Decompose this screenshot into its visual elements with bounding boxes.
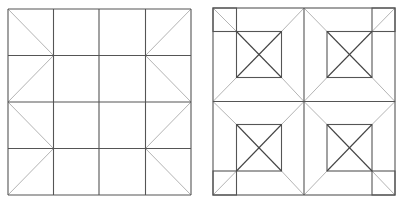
connector-line — [372, 102, 395, 125]
left-grid-figure — [8, 9, 191, 195]
diagonal-line — [146, 9, 192, 56]
connector-line — [372, 8, 395, 32]
diagonal-line — [8, 102, 54, 149]
diagonal-line — [8, 56, 54, 103]
connector-line — [304, 8, 327, 32]
connector-line — [282, 171, 305, 195]
diagonal-line — [8, 9, 54, 56]
diagram-canvas — [0, 0, 398, 204]
diagonal-line — [146, 56, 192, 103]
connector-line — [213, 171, 237, 195]
connector-line — [304, 78, 327, 102]
connector-line — [282, 78, 305, 102]
connector-line — [213, 102, 237, 125]
connector-line — [282, 8, 305, 32]
connector-line — [213, 8, 237, 32]
diagonal-line — [146, 102, 192, 149]
connector-line — [213, 78, 237, 102]
connector-line — [372, 171, 395, 195]
connector-line — [304, 102, 327, 125]
diagonal-line — [146, 149, 192, 196]
right-quadrant-figure — [213, 8, 395, 195]
connector-line — [372, 78, 395, 102]
connector-line — [304, 171, 327, 195]
connector-line — [282, 102, 305, 125]
diagonal-line — [8, 149, 54, 196]
